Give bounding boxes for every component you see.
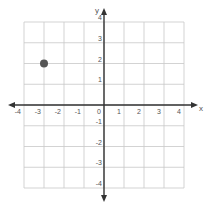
- y-tick-label: -4: [96, 180, 102, 187]
- x-tick-label: -3: [35, 108, 41, 115]
- y-axis-down-arrow-icon: [101, 195, 107, 202]
- x-tick-label: -1: [75, 108, 81, 115]
- y-tick-label: 3: [98, 35, 102, 42]
- y-tick-label: -2: [96, 139, 102, 146]
- y-tick-label: 1: [98, 76, 102, 83]
- x-tick-label: 2: [137, 108, 141, 115]
- tick-labels: -4-3-2-101234-4-3-2-11234: [15, 14, 181, 187]
- x-tick-label: -4: [15, 108, 21, 115]
- x-tick-label: 4: [177, 108, 181, 115]
- y-tick-label: -3: [96, 159, 102, 166]
- y-tick-label: 4: [98, 14, 102, 21]
- x-tick-label: 1: [117, 108, 121, 115]
- x-tick-label: -2: [55, 108, 61, 115]
- y-tick-label: 2: [98, 56, 102, 63]
- data-point: [40, 60, 48, 68]
- data-points: [40, 60, 48, 68]
- x-axis-right-arrow-icon: [191, 102, 198, 108]
- x-axis-label: x: [199, 104, 203, 113]
- x-tick-label: 0: [97, 108, 101, 115]
- y-tick-label: -1: [96, 118, 102, 125]
- x-tick-label: 3: [157, 108, 161, 115]
- coordinate-plane: xy -4-3-2-101234-4-3-2-11234: [0, 0, 207, 204]
- axes: xy: [8, 6, 203, 202]
